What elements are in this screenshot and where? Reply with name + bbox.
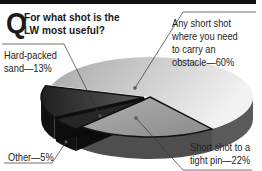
label-other: Other—5%: [8, 151, 54, 164]
pin-marker-dot: [135, 117, 138, 120]
label-tight-pin: Short shot to atight pin—22%: [190, 141, 250, 167]
label-line: Hard-packed: [4, 49, 57, 62]
sand-marker-dot: [99, 115, 102, 118]
label-line: obstacle—60%: [172, 56, 238, 69]
obstacle-marker-dot: [134, 87, 137, 90]
other-marker-dot: [65, 141, 68, 144]
label-line: Any short shot: [172, 17, 238, 30]
label-line: Other—5%: [8, 151, 54, 164]
label-line: where you need: [172, 30, 238, 43]
label-hard-packed-sand: Hard-packedsand—13%: [4, 49, 57, 75]
label-line: tight pin—22%: [190, 154, 250, 167]
label-line: sand—13%: [4, 62, 57, 75]
label-line: to carry an: [172, 43, 238, 56]
label-line: Short shot to a: [190, 141, 250, 154]
label-obstacle: Any short shotwhere you needto carry ano…: [172, 17, 238, 69]
